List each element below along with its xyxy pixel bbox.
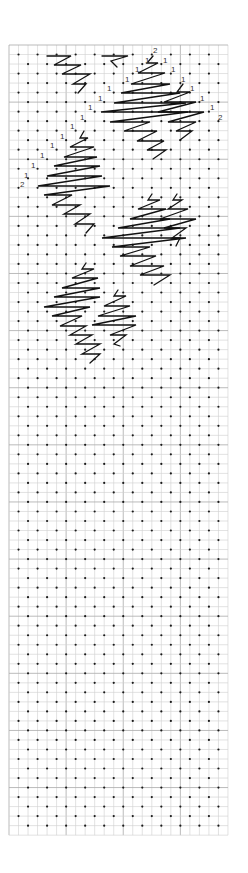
- grid-dot: [198, 368, 200, 370]
- grid-dot: [65, 234, 67, 236]
- grid-dot: [94, 758, 96, 760]
- grid-dot: [132, 53, 134, 55]
- grid-dot: [103, 806, 105, 808]
- grid-dot: [179, 482, 181, 484]
- grid-dot: [122, 368, 124, 370]
- grid-dot: [17, 149, 19, 151]
- grid-dot: [75, 396, 77, 398]
- grid-dot: [65, 615, 67, 617]
- grid-dot: [84, 825, 86, 827]
- grid-dot: [27, 806, 29, 808]
- grid-dot: [170, 777, 172, 779]
- grid-dot: [27, 482, 29, 484]
- grid-dot: [151, 777, 153, 779]
- grid-dot: [151, 625, 153, 627]
- grid-dot: [208, 758, 210, 760]
- grid-dot: [141, 615, 143, 617]
- grid-dot: [113, 187, 115, 189]
- grid-dot: [84, 63, 86, 65]
- grid-dot: [198, 806, 200, 808]
- grid-dot: [113, 377, 115, 379]
- grid-dot: [160, 387, 162, 389]
- grid-dot: [198, 710, 200, 712]
- grid-dot: [198, 463, 200, 465]
- grid-dot: [141, 691, 143, 693]
- grid-dot: [189, 453, 191, 455]
- grid-dot: [179, 539, 181, 541]
- grid-dot: [122, 425, 124, 427]
- grid-dot: [198, 291, 200, 293]
- grid-dot: [151, 815, 153, 817]
- grid-dot: [160, 672, 162, 674]
- grid-dot: [113, 149, 115, 151]
- grid-dot: [27, 406, 29, 408]
- grid-dot: [94, 72, 96, 74]
- grid-dot: [113, 453, 115, 455]
- grid-dot: [56, 606, 58, 608]
- grid-dot: [160, 729, 162, 731]
- grid-dot: [208, 225, 210, 227]
- grid-dot: [141, 158, 143, 160]
- grid-dot: [36, 206, 38, 208]
- stitch-count-label: 2: [218, 113, 223, 122]
- stitch-count-label: 1: [70, 122, 75, 131]
- grid-dot: [179, 215, 181, 217]
- stitch-count-label: 1: [31, 161, 36, 170]
- grid-dot: [160, 310, 162, 312]
- grid-dot: [179, 196, 181, 198]
- grid-dot: [75, 529, 77, 531]
- grid-dot: [17, 396, 19, 398]
- grid-dot: [46, 577, 48, 579]
- grid-dot: [122, 596, 124, 598]
- grid-dot: [46, 634, 48, 636]
- grid-dot: [17, 587, 19, 589]
- grid-dot: [198, 139, 200, 141]
- grid-dot: [113, 510, 115, 512]
- grid-dot: [46, 101, 48, 103]
- grid-dot: [151, 663, 153, 665]
- grid-dot: [27, 691, 29, 693]
- grid-dot: [103, 501, 105, 503]
- grid-dot: [56, 644, 58, 646]
- grid-dot: [179, 253, 181, 255]
- grid-dot: [56, 625, 58, 627]
- grid-dot: [56, 491, 58, 493]
- grid-dot: [17, 720, 19, 722]
- grid-dot: [160, 577, 162, 579]
- grid-dot: [113, 206, 115, 208]
- grid-dot: [113, 472, 115, 474]
- grid-dot: [94, 568, 96, 570]
- grid-dot: [36, 796, 38, 798]
- grid-dot: [141, 748, 143, 750]
- grid-dot: [208, 72, 210, 74]
- grid-dot: [132, 796, 134, 798]
- grid-dot: [65, 729, 67, 731]
- grid-dot: [75, 434, 77, 436]
- grid-dot: [189, 282, 191, 284]
- grid-dot: [27, 253, 29, 255]
- grid-dot: [217, 215, 219, 217]
- grid-dot: [151, 244, 153, 246]
- grid-dot: [189, 72, 191, 74]
- grid-dot: [103, 349, 105, 351]
- grid-dot: [208, 301, 210, 303]
- grid-dot: [179, 520, 181, 522]
- grid-dot: [189, 415, 191, 417]
- grid-dot: [198, 615, 200, 617]
- grid-dot: [36, 815, 38, 817]
- grid-dot: [170, 739, 172, 741]
- grid-dot: [17, 263, 19, 265]
- grid-dot: [113, 415, 115, 417]
- grid-dot: [141, 539, 143, 541]
- grid-dot: [46, 482, 48, 484]
- grid-dot: [46, 63, 48, 65]
- grid-dot: [17, 548, 19, 550]
- grid-dot: [170, 244, 172, 246]
- grid-dot: [75, 758, 77, 760]
- grid-dot: [132, 453, 134, 455]
- grid-dot: [170, 529, 172, 531]
- grid-dot: [103, 672, 105, 674]
- grid-dot: [84, 425, 86, 427]
- grid-dot: [113, 434, 115, 436]
- grid-dot: [179, 368, 181, 370]
